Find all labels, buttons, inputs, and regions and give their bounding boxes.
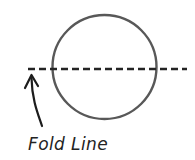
circle-outline [53,15,157,119]
fold-line-label: Fold Line [28,134,108,154]
fold-line-diagram: Fold Line [0,0,195,160]
diagram-canvas: Fold Line [0,0,195,160]
